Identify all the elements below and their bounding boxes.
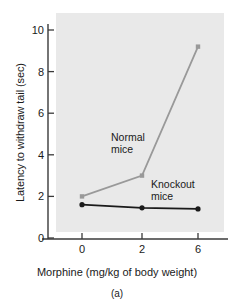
series-label-normal-mice: Normal mice [111, 131, 145, 155]
series-label-normal-mice-line2: mice [111, 143, 145, 155]
data-point [139, 205, 144, 210]
y-axis-tick-label: 6 [22, 108, 44, 119]
x-axis-tick-label: 6 [186, 244, 210, 255]
series-label-knockout-mice-line2: mice [151, 190, 195, 202]
data-point [196, 44, 200, 48]
data-point [80, 194, 84, 198]
data-point [195, 206, 200, 211]
series-label-knockout-mice-line1: Knockout [151, 178, 195, 190]
figure-panel: Latency to withdraw tail (sec) 0246810 0… [0, 0, 234, 301]
series-label-knockout-mice: Knockout mice [151, 178, 195, 202]
y-axis-tick-label: 10 [22, 25, 44, 36]
data-point [79, 202, 84, 207]
panel-caption: (a) [0, 288, 234, 299]
x-axis-tick-label: 2 [130, 244, 154, 255]
y-axis-tick-label: 0 [22, 233, 44, 244]
y-axis-tick-label: 8 [22, 67, 44, 78]
y-axis-tick-label: 2 [22, 191, 44, 202]
y-axis-tick-label: 4 [22, 150, 44, 161]
series-label-normal-mice-line1: Normal [111, 131, 145, 143]
x-axis-tick-label: 0 [70, 244, 94, 255]
data-point [140, 173, 144, 177]
x-axis-title: Morphine (mg/kg of body weight) [0, 266, 234, 279]
x-axis-tick-labels: 026 [0, 244, 234, 258]
